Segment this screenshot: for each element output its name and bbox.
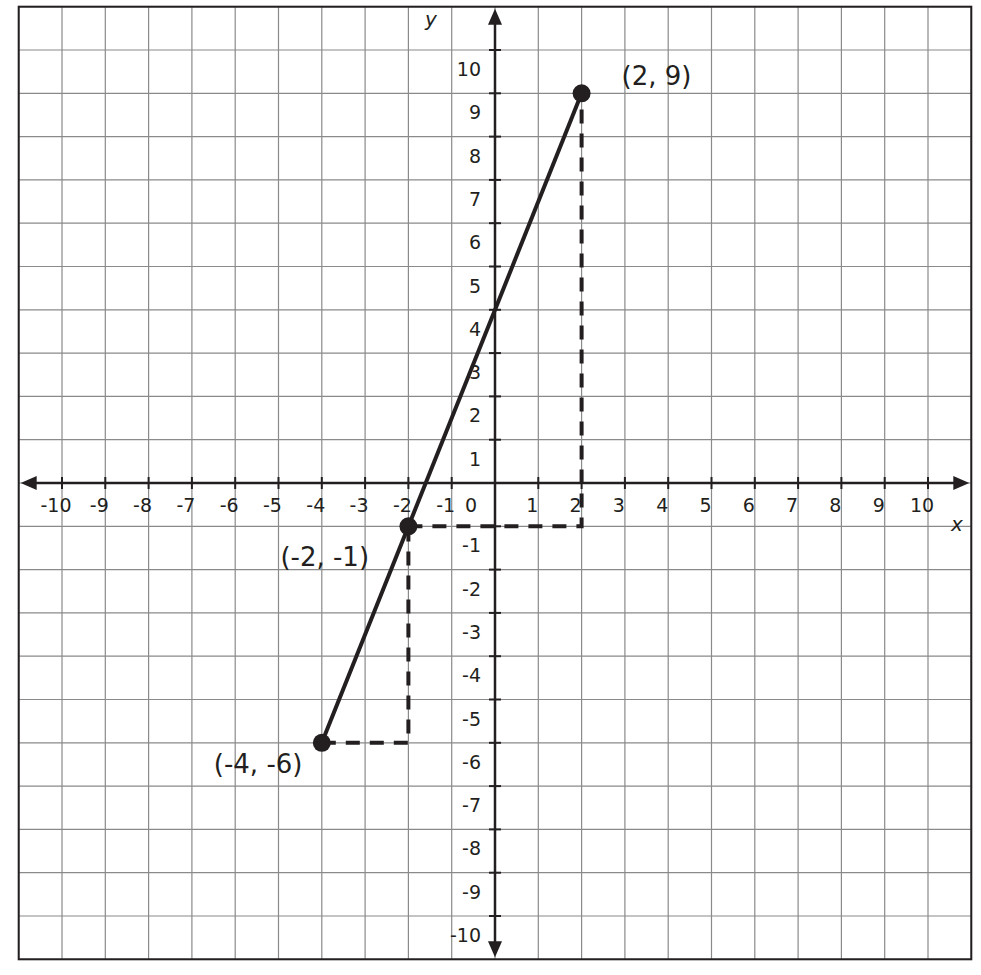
y-tick-label: -1 [462,534,481,556]
data-point [313,734,331,752]
y-tick-label: 1 [469,448,481,470]
axes [21,9,970,958]
x-tick-label: 1 [526,494,538,516]
x-tick-label: 9 [873,494,885,516]
y-tick-label: -8 [462,837,481,859]
coordinate-plane: -10-9-8-7-6-5-4-3-2-1012345678910-10-9-8… [0,0,981,975]
y-tick-label: -10 [450,924,481,946]
arrow-up-icon [488,9,502,25]
x-tick-label: -3 [350,494,369,516]
x-tick-label: -5 [263,494,282,516]
point-label: (-2, -1) [280,542,369,572]
x-tick-label: 7 [786,494,798,516]
data-point [399,517,417,535]
y-tick-label: 5 [469,275,481,297]
y-tick-label: 4 [469,318,481,340]
y-axis-label: y [424,7,438,31]
y-tick-label: 9 [469,101,481,123]
x-tick-label: -7 [176,494,195,516]
point-label: (2, 9) [622,61,692,91]
tick-labels: -10-9-8-7-6-5-4-3-2-1012345678910-10-9-8… [40,50,934,946]
y-tick-label: -7 [462,794,481,816]
x-tick-label: 4 [656,494,668,516]
y-tick-label: -4 [462,664,481,686]
x-tick-label: 3 [613,494,625,516]
x-tick-label: 5 [699,494,711,516]
y-tick-label: 6 [469,231,481,253]
y-tick-label: -9 [462,881,481,903]
x-tick-label: -10 [40,494,71,516]
arrow-down-icon [488,941,502,957]
point-label: (-4, -6) [214,749,303,779]
x-tick-label: 6 [743,494,755,516]
x-tick-label: -9 [90,494,109,516]
y-tick-label: -6 [462,751,481,773]
y-tick-label: 10 [457,58,481,80]
y-tick-label: -3 [462,621,481,643]
y-tick-label: 2 [469,404,481,426]
x-tick-label: -8 [133,494,152,516]
x-tick-label: 10 [910,494,934,516]
x-tick-label: -6 [220,494,239,516]
y-tick-label: 8 [469,145,481,167]
data-point [573,84,591,102]
y-tick-label: -2 [462,578,481,600]
arrow-right-icon [953,476,969,490]
y-tick-label: 7 [469,188,481,210]
x-tick-label: -1 [436,494,455,516]
x-tick-label: 0 [465,494,477,516]
x-tick-label: 8 [829,494,841,516]
arrow-left-icon [21,476,37,490]
x-tick-label: -4 [306,494,325,516]
y-tick-label: -5 [462,708,481,730]
x-axis-label: x [950,512,963,536]
x-tick-label: -2 [393,494,412,516]
